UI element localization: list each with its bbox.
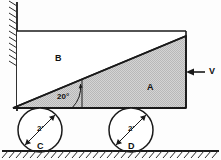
label-block-b: B [55,54,62,63]
force-arrow-v [186,68,205,75]
ground-support [2,151,219,158]
label-block-a: A [147,83,154,92]
ground-hatching [2,151,218,158]
wall-support [9,1,17,111]
label-wheel-d: D [128,142,135,151]
figure-canvas [0,0,221,160]
label-wheel-d-diameter: 2' [128,125,134,133]
label-force-v: V [209,67,215,76]
wall-hatching [9,1,17,66]
mechanics-figure: B A 20° 2' 2' C D V [0,0,221,160]
label-wheel-c-diameter: 2' [37,125,43,133]
label-wheel-c: C [37,142,44,151]
label-angle-20: 20° [57,93,69,101]
